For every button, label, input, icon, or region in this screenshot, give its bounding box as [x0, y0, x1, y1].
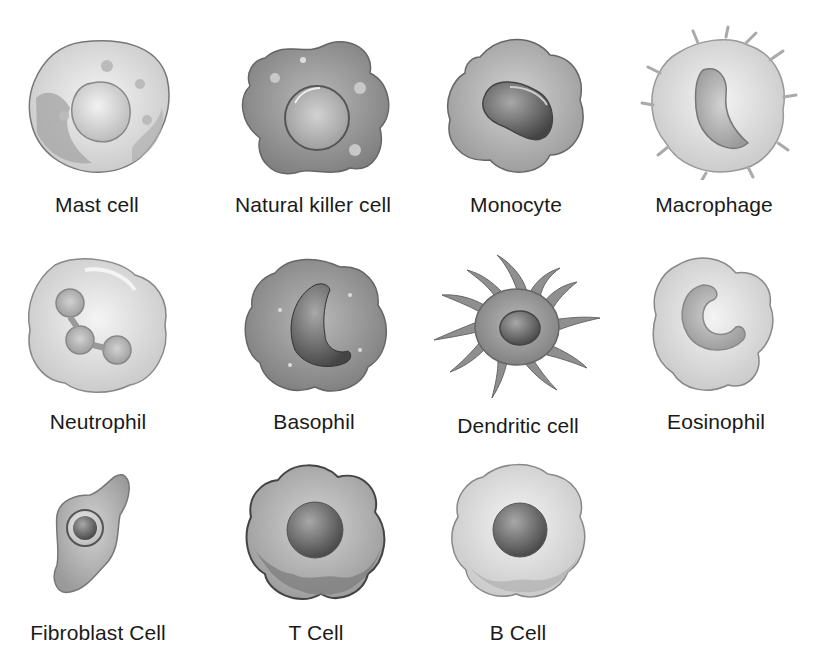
- basophil: [240, 255, 390, 395]
- basophil-icon: [240, 255, 390, 395]
- t-cell: [243, 462, 388, 604]
- natural-killer-cell-icon: [235, 38, 395, 180]
- cell-label: Natural killer cell: [235, 193, 391, 217]
- monocyte: [445, 35, 585, 177]
- dendritic-cell: [432, 250, 602, 400]
- cell-label: Monocyte: [470, 193, 562, 217]
- monocyte-icon: [445, 35, 585, 177]
- neutrophil-icon: [25, 255, 170, 395]
- b-cell-icon: [448, 462, 588, 602]
- cell-label: T Cell: [288, 621, 343, 645]
- cell-label: Macrophage: [655, 193, 773, 217]
- natural-killer-cell: [235, 38, 395, 180]
- cell-label: B Cell: [490, 621, 547, 645]
- fibroblast-cell-icon: [45, 470, 135, 600]
- cell-label: Mast cell: [55, 193, 139, 217]
- macrophage-icon: [638, 25, 798, 180]
- eosinophil: [648, 255, 778, 395]
- cell-label: Basophil: [273, 410, 354, 434]
- cell-label: Fibroblast Cell: [30, 621, 166, 645]
- neutrophil: [25, 255, 170, 395]
- macrophage: [638, 25, 798, 180]
- fibroblast-cell: [45, 470, 135, 600]
- dendritic-cell-icon: [432, 250, 602, 400]
- cell-label: Eosinophil: [667, 410, 765, 434]
- cell-label: Neutrophil: [50, 410, 147, 434]
- mast-cell-icon: [22, 38, 172, 178]
- mast-cell: [22, 38, 172, 178]
- t-cell-icon: [243, 462, 388, 604]
- cell-label: Dendritic cell: [457, 414, 579, 438]
- eosinophil-icon: [648, 255, 778, 395]
- b-cell: [448, 462, 588, 602]
